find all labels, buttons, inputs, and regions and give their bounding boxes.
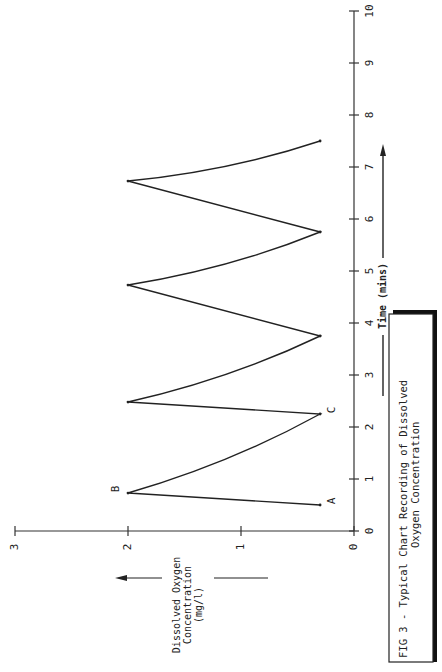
data-point [319, 231, 322, 234]
arrow-left-icon [115, 575, 127, 581]
do-line [128, 141, 320, 505]
do-tick-label: 2 [121, 544, 134, 551]
arrow-up-icon [380, 144, 386, 156]
data-point [319, 413, 322, 416]
point-annotations: ABC [109, 407, 338, 505]
caption-line-1: FIG 3 - Typical Chart Recording of Disso… [397, 380, 409, 658]
data-point [319, 335, 322, 338]
data-point [127, 180, 130, 183]
data-point [127, 284, 130, 287]
annotation-c: C [325, 407, 338, 414]
data-point [319, 504, 322, 507]
time-tick-label: 9 [363, 60, 376, 67]
do-chart: 0123456789100123 ABC Time (mins)Dissolve… [0, 0, 442, 672]
do-tick-label: 1 [234, 544, 247, 551]
do-axis-label-line: (mg/l) [193, 587, 204, 623]
figure-caption: FIG 3 - Typical Chart Recording of Disso… [389, 310, 437, 662]
do-curve [127, 140, 322, 507]
axis-labels: Time (mins)Dissolved OxygenConcentration… [115, 144, 388, 653]
data-point [127, 492, 130, 495]
do-axis-label-line: Dissolved Oxygen [171, 557, 182, 653]
time-tick-label: 10 [363, 4, 376, 17]
time-tick-label: 7 [363, 164, 376, 171]
time-tick-label: 4 [363, 319, 376, 326]
time-tick-label: 2 [363, 424, 376, 431]
do-tick-label: 0 [347, 544, 360, 551]
axes: 0123456789100123 [8, 4, 376, 550]
annotation-a: A [325, 497, 338, 504]
do-axis-label-line: Concentration [182, 566, 193, 644]
do-tick-label: 3 [8, 544, 21, 551]
time-axis-label: Time (mins) [377, 263, 388, 329]
time-tick-label: 1 [363, 476, 376, 483]
time-tick-label: 3 [363, 372, 376, 379]
annotation-b: B [109, 485, 122, 492]
time-tick-label: 5 [363, 268, 376, 275]
data-point [127, 401, 130, 404]
time-tick-label: 0 [363, 528, 376, 535]
data-point [319, 140, 322, 143]
time-tick-label: 6 [363, 216, 376, 223]
do-axis-label: Dissolved OxygenConcentration(mg/l) [171, 557, 204, 653]
caption-line-2: Oxygen Concentration [409, 422, 421, 548]
time-tick-label: 8 [363, 112, 376, 119]
